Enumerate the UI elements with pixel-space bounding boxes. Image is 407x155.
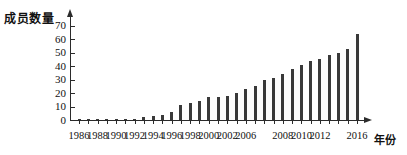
x-tick xyxy=(135,121,136,124)
bar xyxy=(244,89,247,120)
bar xyxy=(272,78,275,120)
x-tick xyxy=(199,121,200,124)
x-tick xyxy=(209,121,210,124)
bar xyxy=(328,55,331,120)
bar xyxy=(179,105,182,120)
x-tick xyxy=(357,121,358,124)
x-tick xyxy=(264,121,265,124)
x-tick xyxy=(190,121,191,124)
bar xyxy=(78,119,81,121)
x-tick xyxy=(311,121,312,124)
x-tick xyxy=(348,121,349,124)
bar xyxy=(356,34,359,120)
x-tick xyxy=(125,121,126,124)
bar xyxy=(263,80,266,120)
bar xyxy=(133,119,136,121)
x-tick xyxy=(237,121,238,124)
bars-group xyxy=(0,0,407,120)
x-tick xyxy=(172,121,173,124)
bar xyxy=(105,119,108,121)
bar xyxy=(300,65,303,120)
x-tick xyxy=(162,121,163,124)
bar xyxy=(226,96,229,120)
bar xyxy=(189,103,192,120)
bar xyxy=(346,49,349,120)
bar xyxy=(235,93,238,120)
x-tick xyxy=(255,121,256,124)
bar-chart: 成员数量 年份 010203040506070 1986198819901992… xyxy=(0,0,407,155)
x-tick xyxy=(218,121,219,124)
bar xyxy=(96,119,99,121)
bar xyxy=(87,119,90,121)
x-tick xyxy=(301,121,302,124)
x-tick xyxy=(181,121,182,124)
x-tick xyxy=(274,121,275,124)
x-tick xyxy=(88,121,89,124)
bar xyxy=(217,97,220,120)
x-tick xyxy=(153,121,154,124)
bar xyxy=(309,61,312,120)
x-tick xyxy=(98,121,99,124)
x-tick xyxy=(116,121,117,124)
x-tick xyxy=(107,121,108,124)
x-tick xyxy=(79,121,80,124)
bar xyxy=(291,69,294,120)
x-tick xyxy=(338,121,339,124)
bar xyxy=(318,59,321,120)
x-axis-label: 2006 xyxy=(235,130,256,141)
x-tick xyxy=(320,121,321,124)
x-axis-title: 年份 xyxy=(374,131,396,147)
x-axis-label: 2016 xyxy=(347,130,368,141)
bar xyxy=(337,53,340,120)
bar xyxy=(142,117,145,120)
bar xyxy=(207,97,210,120)
bar xyxy=(198,101,201,120)
x-tick xyxy=(246,121,247,124)
x-tick xyxy=(283,121,284,124)
x-axis-label: 2012 xyxy=(309,130,330,141)
bar xyxy=(170,112,173,120)
bar xyxy=(161,115,164,120)
bar xyxy=(281,74,284,120)
bar xyxy=(115,119,118,121)
y-tick xyxy=(71,120,75,121)
x-tick xyxy=(329,121,330,124)
bar xyxy=(254,86,257,120)
x-tick xyxy=(292,121,293,124)
x-tick xyxy=(144,121,145,124)
x-tick xyxy=(227,121,228,124)
bar xyxy=(124,119,127,121)
bar xyxy=(152,116,155,120)
